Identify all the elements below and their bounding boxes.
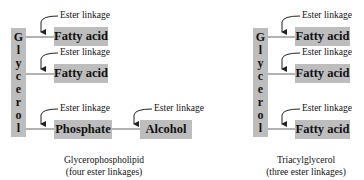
caption-title: Glycerophospholipid [54,154,154,166]
ester-linkage-label: Ester linkage [60,10,110,20]
ester-linkage-label: Ester linkage [154,103,204,113]
glycerol-letter: l [259,122,262,134]
glycerol-letter: o [258,109,264,121]
glycerol-letter: G [14,31,23,43]
glycerol-backbone-left: G l y c e r o l [11,28,26,137]
ester-linkage-label: Ester linkage [60,103,110,113]
glycerol-letter: l [17,122,20,134]
glycerol-letter: c [258,70,263,82]
phosphate-box: Phosphate [54,120,112,139]
caption-glycerophospholipid: Glycerophospholipid (four ester linkages… [54,154,154,178]
caption-title: Triacylglycerol [256,154,356,166]
glycerol-letter: o [16,109,22,121]
fatty-acid-box: Fatty acid [54,27,108,46]
glycerol-letter: e [16,83,21,95]
fatty-acid-box: Fatty acid [295,27,350,46]
glycerol-letter: G [256,31,265,43]
glycerol-letter: e [258,83,263,95]
ester-linkage-label: Ester linkage [60,47,110,57]
glycerol-letter: c [16,70,21,82]
ester-linkage-label: Ester linkage [302,103,352,113]
caption-triacylglycerol: Triacylglycerol (three ester linkages) [256,154,356,178]
fatty-acid-box: Fatty acid [295,120,350,139]
glycerol-letter: r [16,96,21,108]
glycerol-letter: r [258,96,263,108]
ester-linkage-label: Ester linkage [302,10,352,20]
fatty-acid-box: Fatty acid [295,64,350,83]
ester-linkage-label: Ester linkage [302,47,352,57]
glycerol-letter: y [258,57,264,69]
caption-subtitle: (three ester linkages) [256,166,356,178]
glycerol-letter: l [259,44,262,56]
caption-subtitle: (four ester linkages) [54,166,154,178]
glycerol-letter: y [16,57,22,69]
glycerol-backbone-right: G l y c e r o l [253,28,268,137]
fatty-acid-box: Fatty acid [54,64,108,83]
glycerol-letter: l [17,44,20,56]
alcohol-box: Alcohol [140,120,192,139]
